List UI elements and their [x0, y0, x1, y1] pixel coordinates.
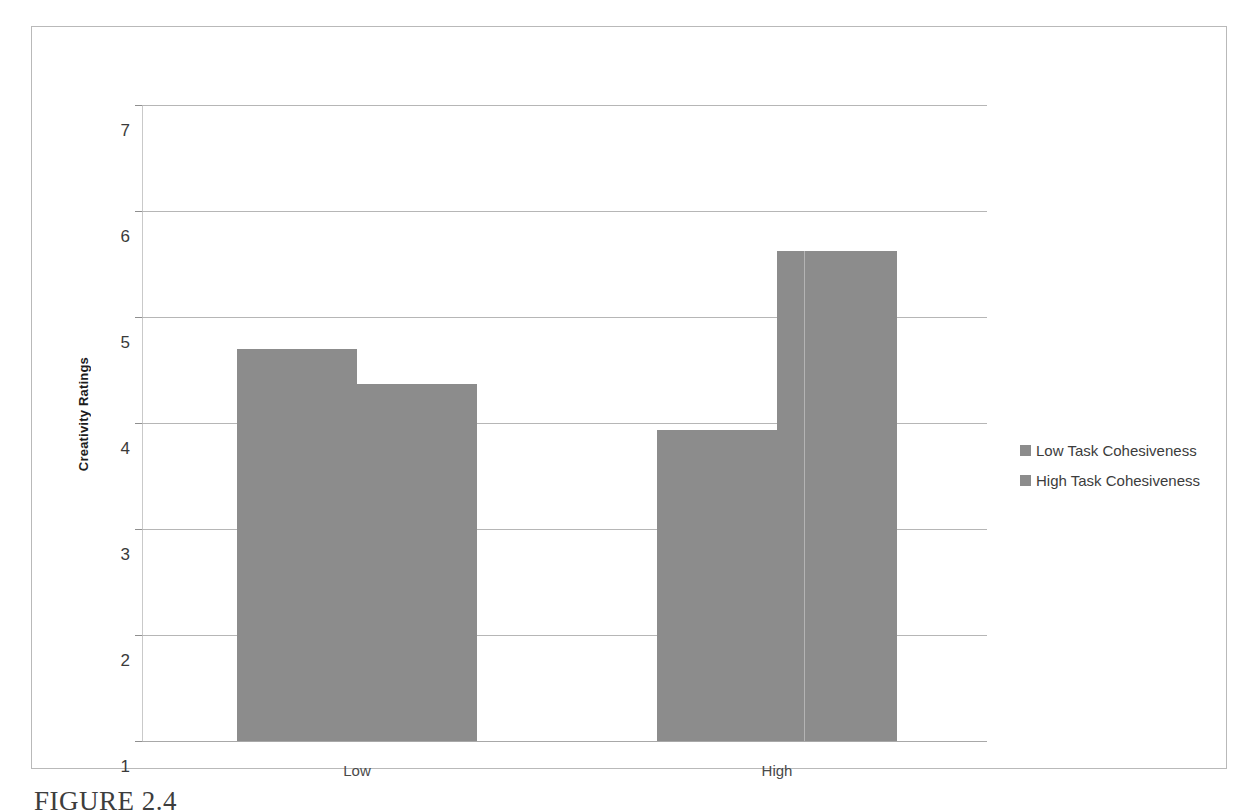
- plot-area: [142, 105, 987, 741]
- bar[interactable]: [237, 349, 357, 741]
- figure-frame: 7654321 Creativity Ratings Low Task Cohe…: [31, 26, 1227, 769]
- y-axis-tick-label: 7: [121, 121, 130, 141]
- y-axis-tick-label: 3: [121, 545, 130, 565]
- bar[interactable]: [657, 430, 777, 741]
- chart-legend: Low Task Cohesiveness High Task Cohesive…: [1020, 435, 1230, 495]
- y-axis-tick-label: 6: [121, 227, 130, 247]
- legend-item[interactable]: Low Task Cohesiveness: [1020, 435, 1230, 465]
- y-axis-tick-mark: [135, 529, 142, 530]
- y-axis-tick-mark: [135, 635, 142, 636]
- y-axis-tick-mark: [135, 211, 142, 212]
- gridline: [142, 741, 987, 742]
- bar[interactable]: [357, 384, 477, 741]
- y-axis-tick-mark: [135, 423, 142, 424]
- x-axis-tick-label: High: [762, 762, 793, 779]
- y-axis-tick-label: 5: [121, 333, 130, 353]
- y-axis-tick-label: 1: [121, 757, 130, 777]
- figure-caption: FIGURE 2.4: [34, 786, 177, 812]
- legend-swatch-icon: [1020, 475, 1031, 486]
- legend-swatch-icon: [1020, 445, 1031, 456]
- y-axis-tick-mark: [135, 317, 142, 318]
- y-axis-tick-mark: [135, 105, 142, 106]
- x-axis-tick-label: Low: [343, 762, 371, 779]
- legend-item-label: High Task Cohesiveness: [1036, 472, 1200, 489]
- gridline: [142, 211, 987, 212]
- legend-item[interactable]: High Task Cohesiveness: [1020, 465, 1230, 495]
- y-axis-title: Creativity Ratings: [76, 357, 98, 471]
- bar[interactable]: [777, 251, 897, 741]
- legend-item-label: Low Task Cohesiveness: [1036, 442, 1197, 459]
- y-axis-tick-mark: [135, 741, 142, 742]
- y-axis-tick-labels: 7654321: [104, 27, 130, 812]
- gridline: [142, 105, 987, 106]
- y-axis-tick-label: 4: [121, 439, 130, 459]
- y-axis-tick-label: 2: [121, 651, 130, 671]
